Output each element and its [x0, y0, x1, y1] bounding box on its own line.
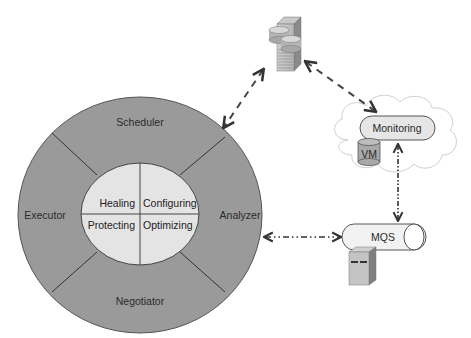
monitoring-label: Monitoring [372, 122, 421, 134]
cylinder-icon: VM [358, 139, 380, 166]
server-tower-icon [349, 247, 376, 285]
inner-core [81, 163, 199, 265]
connector-server-to-monitoring [306, 62, 375, 111]
queue-pipe-icon: MQS [342, 224, 426, 250]
segment-scheduler: Scheduler [116, 116, 164, 128]
monitoring-node: Monitoring [360, 116, 435, 140]
quadrant-protecting: Protecting [88, 219, 135, 231]
segment-negotiator: Negotiator [116, 295, 165, 307]
architecture-diagram: Scheduler Analyzer Negotiator Executor H… [0, 0, 471, 338]
quadrant-configuring: Configuring [143, 197, 197, 209]
segment-analyzer: Analyzer [220, 209, 261, 221]
vm-label: VM [361, 148, 377, 160]
quadrant-healing: Healing [99, 197, 135, 209]
mqs-label: MQS [371, 231, 395, 243]
quadrant-optimizing: Optimizing [143, 219, 193, 231]
segment-executor: Executor [24, 209, 66, 221]
database-server-icon [269, 17, 301, 71]
connector-server-to-ring [224, 70, 263, 127]
